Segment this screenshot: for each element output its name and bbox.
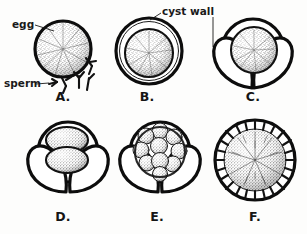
figure-canvas: egg sperm	[0, 0, 307, 234]
panel-c-egg	[231, 27, 277, 73]
panel-letter-d: D.	[55, 209, 71, 224]
callout-egg-label: egg	[12, 18, 34, 30]
panel-letter-e: E.	[150, 209, 164, 224]
illustration-plate: egg sperm	[0, 0, 307, 234]
panel-a-egg-sphere	[35, 21, 91, 77]
callout-cyst-wall-label: cyst wall	[162, 5, 214, 17]
panel-letter-f: F.	[249, 209, 261, 224]
callout-sperm-label: sperm	[4, 77, 41, 89]
panel-d-blastomeres	[46, 127, 88, 173]
panel-b-zygote	[125, 29, 173, 77]
panel-letter-c: C.	[246, 89, 260, 104]
panel-letter-a: A.	[55, 89, 70, 104]
panel-letter-b: B.	[140, 89, 155, 104]
